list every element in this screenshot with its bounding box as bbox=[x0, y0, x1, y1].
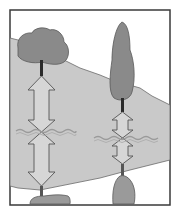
left-root bbox=[40, 186, 43, 196]
right-trunk bbox=[121, 98, 124, 112]
broad-leaf-tree-icon bbox=[18, 28, 69, 64]
right-root bbox=[121, 164, 124, 176]
diagram-frame bbox=[0, 0, 175, 215]
left-trunk bbox=[40, 60, 43, 76]
diagram-illustration bbox=[0, 0, 175, 215]
